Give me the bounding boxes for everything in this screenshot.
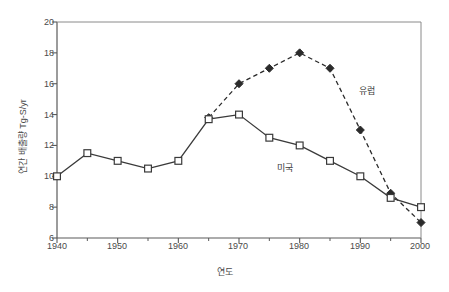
- data-point-open-square: [418, 204, 425, 211]
- data-point-open-square: [145, 165, 152, 172]
- data-point-open-square: [114, 157, 121, 164]
- y-axis-ticks: [52, 22, 57, 238]
- series-usa: [54, 111, 425, 210]
- data-point-filled-diamond: [265, 64, 273, 72]
- plot-area: [0, 0, 449, 292]
- data-point-filled-diamond: [326, 64, 334, 72]
- data-point-open-square: [236, 111, 243, 118]
- chart-container: 연간 배출량 Tg-S/yr 연도 20 18 16 14 12 10 8 6 …: [0, 0, 449, 292]
- data-point-filled-diamond: [356, 126, 364, 134]
- data-point-open-square: [205, 116, 212, 123]
- x-axis-ticks: [57, 238, 421, 243]
- data-point-open-square: [296, 142, 303, 149]
- data-point-open-square: [266, 134, 273, 141]
- series-line-미국: [57, 115, 421, 208]
- data-point-open-square: [387, 194, 394, 201]
- data-point-open-square: [84, 150, 91, 157]
- data-point-open-square: [357, 173, 364, 180]
- data-point-filled-diamond: [296, 49, 304, 57]
- data-point-open-square: [327, 157, 334, 164]
- data-point-open-square: [54, 173, 61, 180]
- axes: [52, 22, 421, 243]
- data-point-open-square: [175, 157, 182, 164]
